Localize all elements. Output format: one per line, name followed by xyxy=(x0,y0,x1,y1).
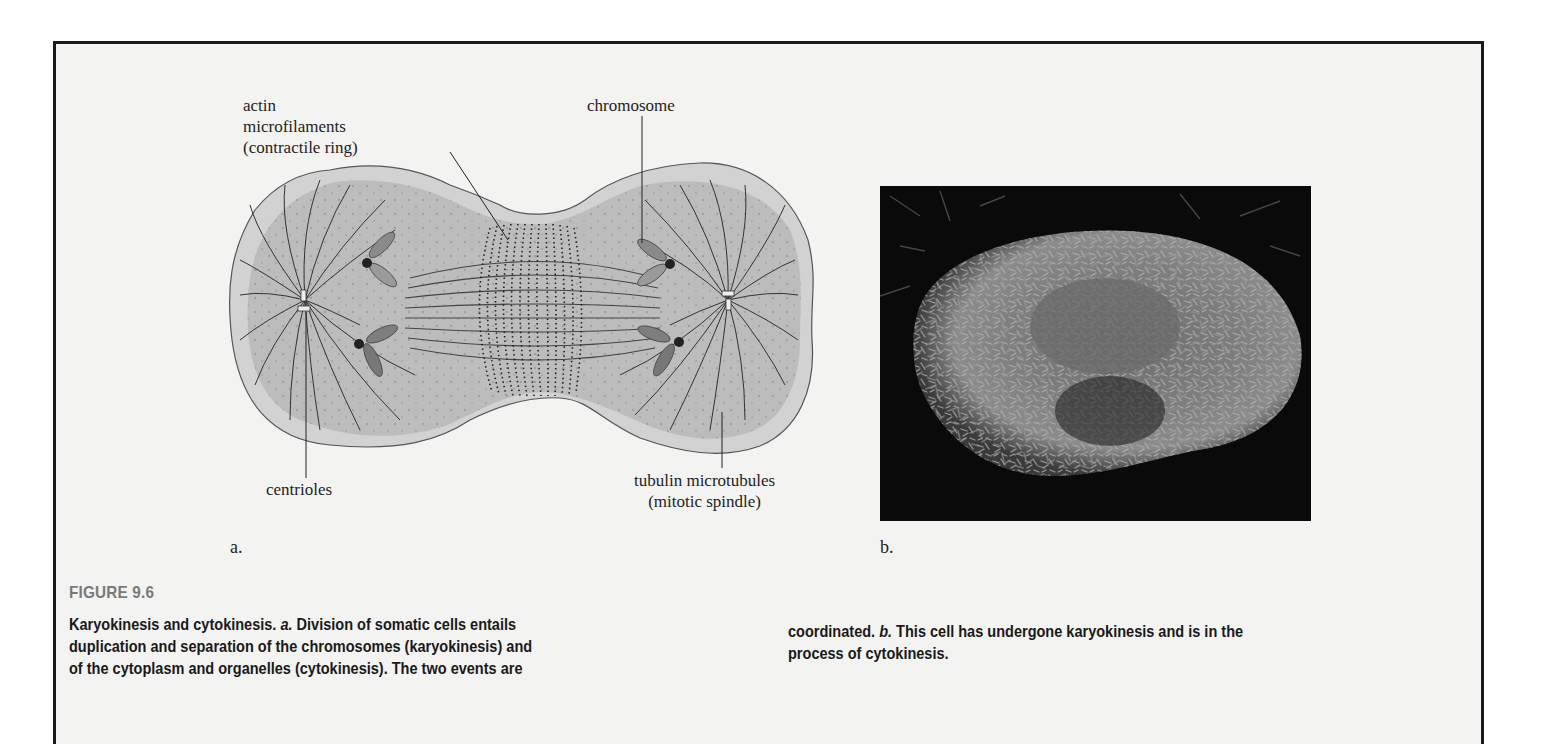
actin-label: actin microfilaments (contractile ring) xyxy=(243,95,358,158)
caption-left-line-1: Karyokinesis and cytokinesis. a. Divisio… xyxy=(69,613,532,635)
caption-right-line-2: process of cytokinesis. xyxy=(788,642,1243,664)
right-centriole-horizontal xyxy=(722,291,734,296)
chromosome-label: chromosome xyxy=(587,95,675,116)
panel-b-letter: b. xyxy=(880,537,894,558)
left-centriole-vertical xyxy=(301,290,306,301)
caption-right: coordinated. b. This cell has undergone … xyxy=(788,620,1243,664)
tubulin-label: tubulin microtubules (mitotic spindle) xyxy=(634,470,775,512)
caption-left: Karyokinesis and cytokinesis. a. Divisio… xyxy=(69,613,532,679)
sem-image xyxy=(880,186,1311,521)
caption-left-line-3: of the cytoplasm and organelles (cytokin… xyxy=(69,657,532,679)
panel-a-letter: a. xyxy=(230,537,243,558)
left-centriole-horizontal xyxy=(298,306,310,311)
figure-number: FIGURE 9.6 xyxy=(69,583,154,603)
smooth-dome xyxy=(1030,278,1180,374)
right-centriole-vertical xyxy=(726,299,731,310)
caption-right-line-1: coordinated. b. This cell has undergone … xyxy=(788,620,1243,642)
caption-left-line-2: duplication and separation of the chromo… xyxy=(69,635,532,657)
sem-micrograph xyxy=(880,186,1311,521)
centrioles-label: centrioles xyxy=(266,479,332,500)
